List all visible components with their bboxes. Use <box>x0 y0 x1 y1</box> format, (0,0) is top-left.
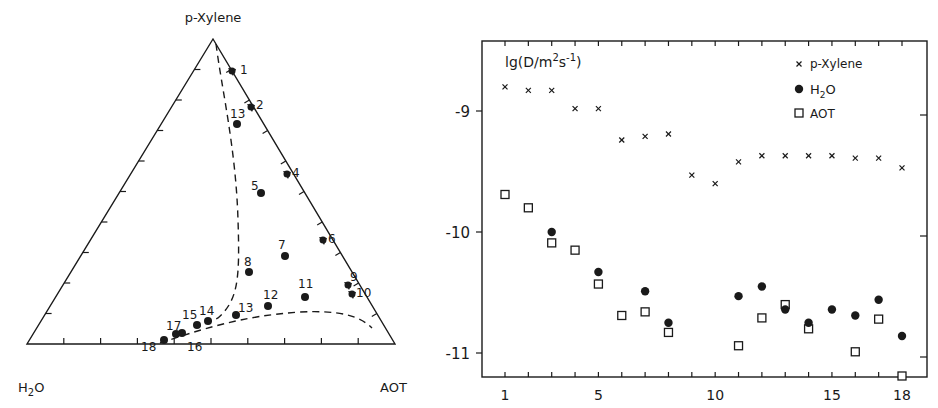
data-point-p-xylene <box>573 106 578 111</box>
composition-point <box>229 68 236 75</box>
data-point-p-xylene <box>806 153 811 158</box>
ternary-ticks <box>46 70 377 345</box>
scatter-plot: 15101518 -9-10-11 lg(D/m2s-1) p-Xylene H… <box>446 41 928 403</box>
data-point-p-xylene <box>759 153 764 158</box>
data-point-p-xylene <box>783 153 788 158</box>
x-tick-label: 1 <box>501 387 510 403</box>
data-point-h2o <box>781 305 789 313</box>
y-tick-label: -10 <box>446 224 471 242</box>
data-point-aot <box>758 314 766 322</box>
ternary-diagram: 1213456789101112131415161718 p-Xylene H2… <box>18 10 407 398</box>
data-point-p-xylene <box>736 159 741 164</box>
data-point-h2o <box>734 292 742 300</box>
data-point-aot <box>571 246 579 254</box>
data-point-aot <box>524 204 532 212</box>
data-point-h2o <box>664 319 672 327</box>
data-point-p-xylene <box>666 131 671 136</box>
y-axis: -9-10-11 <box>446 103 928 363</box>
data-point-h2o <box>641 287 649 295</box>
composition-point <box>245 268 253 276</box>
data-point-h2o <box>828 305 836 313</box>
data-point-p-xylene <box>503 84 508 89</box>
composition-point <box>204 317 212 325</box>
vertex-label-p-xylene: p-Xylene <box>185 10 242 25</box>
point-label: 13 <box>230 107 245 121</box>
composition-point <box>320 237 327 244</box>
legend-marker-circle-icon <box>795 85 803 93</box>
y-tick-label: -11 <box>446 345 471 363</box>
phase-boundary-vertical <box>200 44 239 326</box>
data-point-h2o <box>874 296 882 304</box>
data-point-p-xylene <box>853 156 858 161</box>
ternary-triangle <box>27 39 395 344</box>
tick-mark <box>372 314 377 317</box>
point-label: 4 <box>292 166 300 180</box>
composition-point <box>281 252 289 260</box>
data-point-aot <box>898 372 906 380</box>
ternary-point-labels: 1213456789101112131415161718 <box>141 63 371 354</box>
point-label: 18 <box>141 340 156 354</box>
legend-marker-square-icon <box>795 109 803 117</box>
vertex-label-h2o: H2O <box>18 380 44 398</box>
data-point-h2o <box>758 282 766 290</box>
x-tick-label: 18 <box>893 387 911 403</box>
data-point-aot <box>641 308 649 316</box>
data-point-p-xylene <box>876 156 881 161</box>
point-label: 17 <box>166 319 181 333</box>
tick-mark <box>263 131 268 134</box>
legend-label-h2o: H2O <box>810 82 836 100</box>
data-point-p-xylene <box>829 153 834 158</box>
data-point-aot <box>735 342 743 350</box>
point-label: 6 <box>328 232 336 246</box>
point-label: 8 <box>244 255 252 269</box>
x-tick-label: 15 <box>823 387 841 403</box>
tick-mark <box>335 253 340 256</box>
data-series <box>501 84 906 380</box>
data-point-aot <box>875 315 883 323</box>
legend-marker-x-icon <box>797 62 802 67</box>
data-point-p-xylene <box>549 88 554 93</box>
point-label: 12 <box>263 288 278 302</box>
point-label: 5 <box>251 179 259 193</box>
composition-point <box>284 171 291 178</box>
tick-mark <box>317 222 322 225</box>
point-label: 9 <box>350 270 358 284</box>
composition-point <box>233 120 241 128</box>
tick-mark <box>299 192 304 195</box>
point-label: 7 <box>278 238 286 252</box>
composition-point <box>301 293 309 301</box>
point-label: 11 <box>298 277 313 291</box>
composition-point <box>193 321 201 329</box>
point-label: 2 <box>256 98 264 112</box>
vertex-label-aot: AOT <box>380 380 407 395</box>
composition-point <box>160 336 168 344</box>
data-point-p-xylene <box>900 165 905 170</box>
x-tick-label: 10 <box>706 387 724 403</box>
data-point-p-xylene <box>643 134 648 139</box>
data-point-h2o <box>898 332 906 340</box>
point-label: 10 <box>356 286 371 300</box>
legend-label-aot: AOT <box>810 107 835 121</box>
data-point-aot <box>594 280 602 288</box>
data-point-h2o <box>594 268 602 276</box>
legend-label-p-xylene: p-Xylene <box>810 57 862 71</box>
data-point-h2o <box>804 319 812 327</box>
data-point-aot <box>664 328 672 336</box>
x-axis: 15101518 <box>501 41 911 403</box>
data-point-aot <box>501 190 509 198</box>
data-point-aot <box>851 348 859 356</box>
data-point-p-xylene <box>713 181 718 186</box>
legend: p-Xylene H2O AOT <box>795 57 863 121</box>
data-point-h2o <box>548 228 556 236</box>
data-point-p-xylene <box>619 138 624 143</box>
point-label: 14 <box>199 304 214 318</box>
tick-mark <box>281 161 286 164</box>
data-point-aot <box>548 239 556 247</box>
data-point-p-xylene <box>689 173 694 178</box>
tick-mark <box>244 100 249 103</box>
plot-frame <box>482 41 927 377</box>
point-label: 13 <box>238 301 253 315</box>
composition-point <box>248 104 255 111</box>
point-label: 1 <box>240 63 248 77</box>
y-tick-label: -9 <box>455 103 470 121</box>
